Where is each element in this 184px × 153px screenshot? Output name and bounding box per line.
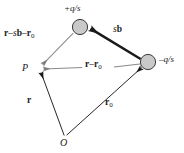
- charge-negative-body: q/s: [164, 54, 175, 64]
- charge-positive-body: q/s: [70, 3, 81, 13]
- vector-line-r-minus-sb-minus-r0: [43, 33, 74, 64]
- node-charge-negative: [140, 54, 155, 69]
- sb-b: b: [117, 24, 122, 34]
- label-vector-r0: r0: [105, 98, 113, 109]
- rr0-r0-sub: 0: [98, 63, 102, 71]
- label-point-p: P: [22, 63, 28, 73]
- label-vector-r: r: [27, 96, 31, 106]
- node-charge-positive: [72, 19, 87, 34]
- label-charge-positive: +q/s: [64, 4, 81, 13]
- label-vector-sb: sb: [113, 25, 122, 35]
- vector-line-r-minus-r0-right: [114, 64, 140, 67]
- rsbr0-r0-sub: 0: [31, 32, 35, 40]
- label-vector-r-minus-r0: r–r0: [85, 60, 102, 71]
- vector-line-r-minus-r0-left: [43, 68, 82, 69]
- vector-line-r: [41, 72, 64, 135]
- vector-diagram-figure: +q/s –q/s r–sb–r0 sb r–r0 P r r0 O: [0, 0, 184, 153]
- label-point-o: O: [60, 138, 67, 148]
- diagram-canvas: [0, 0, 184, 153]
- r-r: r: [27, 95, 31, 105]
- label-charge-negative: –q/s: [159, 55, 174, 64]
- r0-sub: 0: [109, 101, 113, 109]
- label-vector-r-minus-sb-minus-r0: r–sb–r0: [4, 29, 34, 40]
